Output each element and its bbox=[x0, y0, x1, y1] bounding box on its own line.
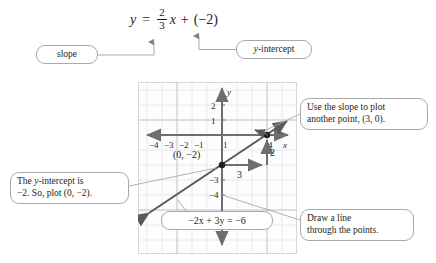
equation-variable-x: x bbox=[170, 12, 176, 28]
svg-text:1: 1 bbox=[223, 140, 228, 150]
fraction-denominator: 3 bbox=[157, 19, 167, 32]
svg-text:−3: −3 bbox=[209, 175, 219, 185]
callout-y-intercept-explanation-line1: The y-intercept is bbox=[17, 176, 122, 188]
slope-rise-label: 2 bbox=[270, 147, 275, 158]
y-axis-label: y bbox=[226, 87, 231, 97]
callout-use-slope-line1: Use the slope to plot bbox=[307, 102, 421, 114]
fraction-numerator: 2 bbox=[157, 7, 167, 19]
callout-slope-text: slope bbox=[57, 49, 77, 59]
callout-draw-line-line2: through the points. bbox=[307, 225, 407, 237]
svg-text:1: 1 bbox=[211, 116, 216, 126]
point-y-intercept bbox=[219, 162, 225, 168]
callout-standard-form-equation: −2x + 3y = −6 bbox=[161, 211, 273, 230]
callout-y-intercept-explanation: The y-intercept is −2. So, plot (0, −2). bbox=[10, 172, 129, 204]
equation-plus-sign: + bbox=[181, 12, 189, 28]
callout-y-intercept-explanation-line2: −2. So, plot (0, −2). bbox=[17, 188, 122, 200]
x-axis-label: x bbox=[282, 140, 287, 150]
equation-equals-sign: = bbox=[142, 12, 150, 28]
svg-text:−4: −4 bbox=[209, 190, 219, 200]
callout-standard-form-text: −2x + 3y = −6 bbox=[188, 215, 246, 226]
equation-lhs: y bbox=[130, 12, 136, 28]
slope-run-label: 3 bbox=[237, 169, 242, 180]
equation-slope-intercept-form: y = 2 3 x + (−2) bbox=[130, 8, 218, 32]
callout-slope: slope bbox=[36, 45, 98, 64]
svg-text:−4: −4 bbox=[149, 140, 159, 150]
callout-draw-line: Draw a line through the points. bbox=[300, 209, 414, 241]
callout-draw-line-line1: Draw a line bbox=[307, 213, 407, 225]
callout-use-slope: Use the slope to plot another point, (3,… bbox=[300, 98, 428, 130]
callout-y-intercept: y-intercept bbox=[236, 40, 312, 59]
callout-use-slope-line2: another point, (3, 0). bbox=[307, 114, 421, 126]
svg-text:2: 2 bbox=[211, 101, 216, 111]
point-from-slope bbox=[264, 132, 270, 138]
callout-y-intercept-text: y-intercept bbox=[254, 44, 295, 54]
point-label-y-intercept: (0, −2) bbox=[173, 149, 200, 161]
equation-constant-term: (−2) bbox=[194, 12, 218, 28]
equation-fraction-two-thirds: 2 3 bbox=[157, 7, 167, 31]
